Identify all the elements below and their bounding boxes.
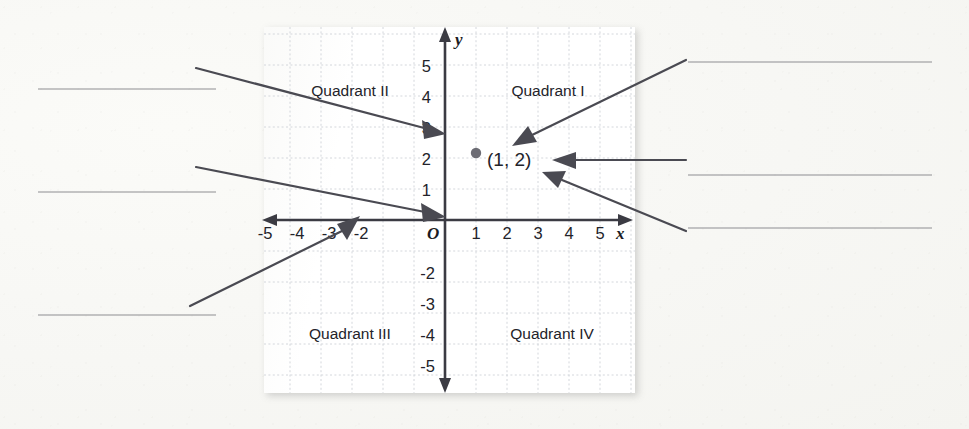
callout-arrow-right-middle xyxy=(552,152,686,169)
callout-arrow-right-bottom xyxy=(542,171,686,231)
x-tick-3: 3 xyxy=(533,224,542,242)
figure-vector-layer: y x O -5 -4 -3 -2 1 2 3 4 5 5 4 3 2 1 -2… xyxy=(0,0,969,429)
quadrant-label-iii: Quadrant III xyxy=(309,325,391,342)
plotted-point-label: (1, 2) xyxy=(487,149,531,170)
x-tick-2: 2 xyxy=(502,224,511,242)
y-tick--4: -4 xyxy=(420,326,435,344)
worksheet-figure: y x O -5 -4 -3 -2 1 2 3 4 5 5 4 3 2 1 -2… xyxy=(0,0,969,429)
x-tick-5: 5 xyxy=(595,224,604,242)
y-axis xyxy=(439,27,451,393)
y-tick--3: -3 xyxy=(420,295,435,313)
x-tick-1: 1 xyxy=(471,224,480,242)
y-tick-5: 5 xyxy=(422,57,431,75)
y-tick-4: 4 xyxy=(422,88,431,106)
x-tick--2: -2 xyxy=(354,224,369,242)
x-tick--4: -4 xyxy=(290,224,305,242)
quadrant-label-ii: Quadrant II xyxy=(311,82,389,99)
y-tick-2: 2 xyxy=(422,150,431,168)
quadrant-label-i: Quadrant I xyxy=(511,82,584,99)
x-tick-4: 4 xyxy=(564,224,573,242)
origin-label: O xyxy=(427,224,439,243)
quadrant-label-iv: Quadrant IV xyxy=(510,325,594,342)
y-tick--2: -2 xyxy=(420,264,435,282)
y-axis-label: y xyxy=(453,30,463,49)
y-tick--5: -5 xyxy=(420,357,435,375)
x-axis xyxy=(262,214,633,226)
x-axis-label: x xyxy=(615,224,625,243)
x-tick--5: -5 xyxy=(258,224,273,242)
y-tick-1: 1 xyxy=(422,181,431,199)
plotted-point-dot xyxy=(471,148,481,158)
